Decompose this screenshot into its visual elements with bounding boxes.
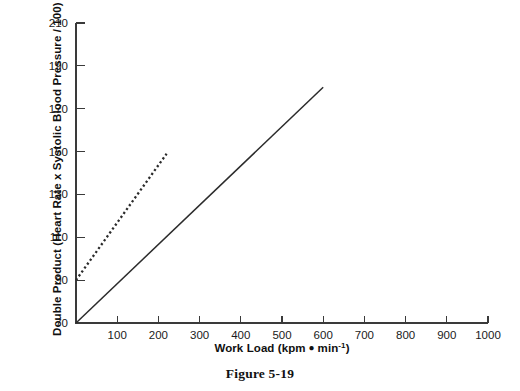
x-axis-title-close: ) [346,342,350,354]
figure-caption: Figure 5-19 [0,366,520,382]
x-tick-label: 600 [314,329,333,341]
tick-marks-group [76,23,488,323]
x-tick-label: 500 [272,329,291,341]
x-axis-unit-dot-icon: ● [306,342,318,353]
x-tick-label: 800 [396,329,415,341]
x-axis-title-unit: min [318,342,339,354]
x-tick-label: 400 [231,329,250,341]
tick-labels-group: 1002003004005006007008009001000709011013… [49,17,501,341]
x-axis-title-main: Work Load (kpm [214,342,305,354]
y-axis-title: Double Product (Heart Rate x Systolic Bl… [51,6,63,336]
x-tick-label: 900 [437,329,456,341]
series-line-steeper-dotted-line [76,154,167,280]
chart-plot-area: 1002003004005006007008009001000709011013… [0,0,520,391]
x-tick-label: 200 [149,329,168,341]
figure-container: 1002003004005006007008009001000709011013… [0,0,520,391]
x-tick-label: 700 [355,329,374,341]
x-axis-title: Work Load (kpm ● min-1) [76,341,488,354]
x-axis-title-exponent: -1 [338,341,345,350]
x-tick-label: 1000 [475,329,501,341]
data-series-group [76,87,323,323]
x-tick-label: 100 [108,329,127,341]
axis-frame [76,23,488,323]
series-line-lower-slope-solid-line [76,87,323,323]
x-tick-label: 300 [190,329,209,341]
axes-group [76,23,488,323]
